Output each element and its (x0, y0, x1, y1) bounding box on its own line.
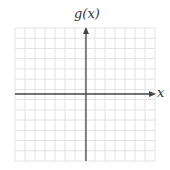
y-axis-label: g(x) (74, 6, 100, 21)
coordinate-grid-figure: g(x) x (0, 0, 170, 170)
grid (0, 0, 170, 170)
x-axis-label: x (157, 85, 164, 100)
